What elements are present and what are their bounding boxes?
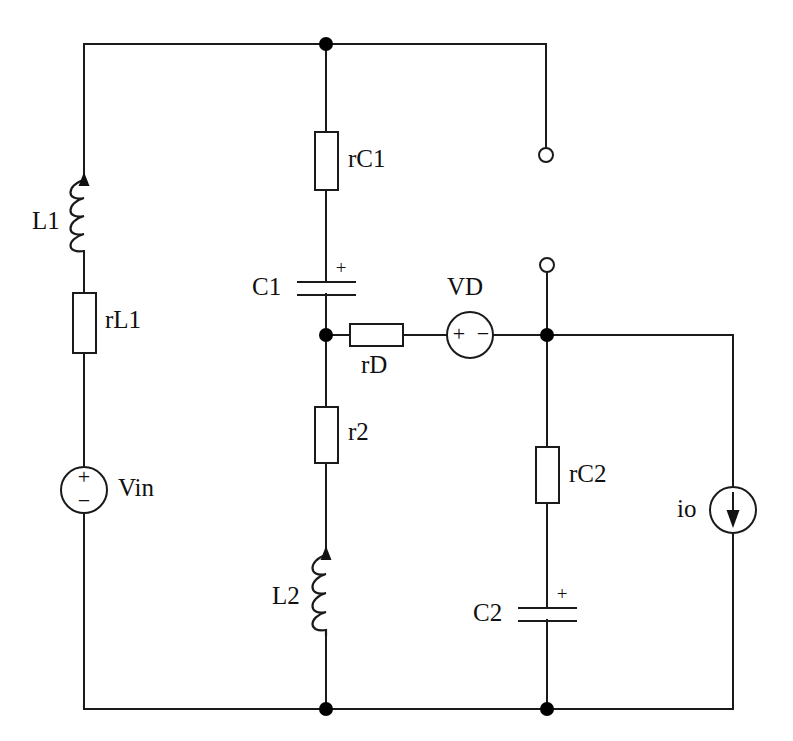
io-label: io bbox=[677, 495, 696, 522]
rc2-label: rC2 bbox=[569, 460, 607, 487]
rc1-label: rC1 bbox=[348, 145, 386, 172]
l2-label: L2 bbox=[272, 582, 300, 609]
rl1-body-icon bbox=[73, 293, 96, 353]
c2-plus-sign: + bbox=[557, 583, 568, 604]
rc1-body-icon bbox=[315, 132, 338, 190]
component-l1[interactable]: L1 bbox=[32, 172, 90, 251]
node-c1-rd bbox=[319, 328, 333, 342]
rc2-body-icon bbox=[536, 447, 559, 503]
component-io[interactable]: io bbox=[677, 487, 756, 533]
circuit-diagram-page: L1 rL1 + − Vin rC1 + C1 rD bbox=[0, 0, 793, 741]
r2-label: r2 bbox=[348, 418, 369, 445]
vin-plus-sign: + bbox=[78, 464, 90, 489]
node-top-rail bbox=[319, 37, 333, 51]
node-bottom-right bbox=[540, 702, 554, 716]
vd-label: VD bbox=[447, 273, 483, 300]
rd-body-icon bbox=[350, 324, 403, 346]
output-terminal-middle-icon[interactable] bbox=[540, 258, 554, 272]
junction-dots-group bbox=[319, 37, 554, 716]
r2-body-icon bbox=[315, 407, 338, 463]
l1-coil-icon bbox=[71, 180, 85, 251]
circuit-schematic-canvas: L1 rL1 + − Vin rC1 + C1 rD bbox=[0, 0, 793, 741]
rl1-label: rL1 bbox=[105, 306, 141, 333]
component-c1[interactable]: + C1 bbox=[252, 257, 355, 299]
l2-coil-icon bbox=[313, 555, 327, 636]
vin-label: Vin bbox=[118, 474, 154, 501]
l1-label: L1 bbox=[32, 207, 60, 234]
node-bottom-left bbox=[319, 702, 333, 716]
vd-minus-sign: − bbox=[477, 321, 489, 346]
component-rc2[interactable]: rC2 bbox=[536, 447, 607, 503]
node-vd-output bbox=[540, 328, 554, 342]
l2-arrow-icon bbox=[321, 546, 332, 560]
output-terminal-top-icon[interactable] bbox=[539, 148, 553, 162]
component-vd[interactable]: + − VD bbox=[447, 273, 493, 358]
wires-group bbox=[84, 44, 733, 709]
component-rd[interactable]: rD bbox=[350, 324, 403, 378]
vd-plus-sign: + bbox=[453, 321, 465, 346]
c2-label: C2 bbox=[473, 599, 502, 626]
component-c2[interactable]: + C2 bbox=[473, 583, 576, 625]
l1-arrow-icon bbox=[79, 172, 90, 186]
c1-plus-sign: + bbox=[336, 257, 347, 278]
c1-label: C1 bbox=[252, 273, 281, 300]
component-vin[interactable]: + − Vin bbox=[61, 464, 154, 513]
component-l2[interactable]: L2 bbox=[272, 546, 332, 636]
vin-minus-sign: − bbox=[78, 488, 90, 513]
component-r2[interactable]: r2 bbox=[315, 407, 369, 463]
component-rl1[interactable]: rL1 bbox=[73, 293, 141, 353]
component-rc1[interactable]: rC1 bbox=[315, 132, 386, 190]
terminals-group bbox=[539, 148, 554, 272]
rd-label: rD bbox=[361, 351, 387, 378]
